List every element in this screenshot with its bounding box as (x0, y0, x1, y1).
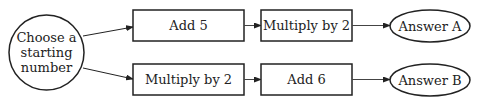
answer-b-label: Answer B (390, 64, 470, 96)
flow-diagram: Choose a starting number Add 5 Multiply … (0, 0, 480, 106)
bottom-step1-label: Multiply by 2 (133, 64, 244, 95)
arrow-start-to-top (83, 27, 133, 36)
start-label-line2: starting (21, 45, 73, 60)
arrow-start-to-bottom (83, 68, 133, 79)
start-label-line1: Choose a (16, 30, 76, 45)
top-step1-label: Add 5 (133, 10, 244, 41)
start-label-line3: number (21, 60, 72, 75)
start-label: Choose a starting number (9, 15, 84, 90)
bottom-step2-label: Add 6 (261, 64, 352, 95)
answer-a-label: Answer A (390, 10, 470, 42)
top-step2-label: Multiply by 2 (261, 10, 352, 41)
